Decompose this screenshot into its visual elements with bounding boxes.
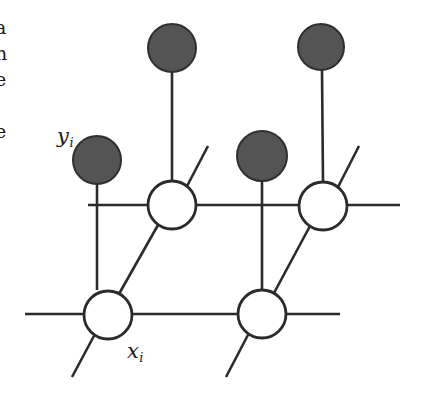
latent-label-subscript: i bbox=[139, 350, 143, 365]
margin-text-column: aneie bbox=[0, 14, 14, 144]
observed-node-middle bbox=[237, 131, 287, 181]
figure-canvas: aneie yi xi bbox=[0, 0, 422, 393]
edge-layer bbox=[25, 70, 400, 377]
observed-label-base: y bbox=[57, 124, 69, 148]
margin-text-fragment: i bbox=[0, 92, 14, 118]
node-layer bbox=[73, 24, 347, 339]
observed-label-subscript: i bbox=[69, 135, 73, 150]
edge-latent-lower-left-to-latent-upper-left bbox=[119, 225, 158, 294]
stub-lower-left-down-left bbox=[72, 334, 95, 377]
edge-latent-lower-right-to-latent-upper-right bbox=[274, 226, 310, 293]
latent-variable-label: xi bbox=[127, 341, 144, 364]
margin-text-fragment: n bbox=[0, 40, 14, 66]
observed-variable-label: yi bbox=[57, 126, 74, 149]
margin-text-fragment: e bbox=[0, 118, 14, 144]
margin-text-fragment: a bbox=[0, 14, 14, 40]
lattice-diagram bbox=[0, 0, 422, 393]
stub-upper-right-up-right bbox=[337, 146, 359, 189]
observed-node-left bbox=[73, 136, 121, 184]
latent-node-lower-right bbox=[238, 290, 286, 338]
latent-node-lower-left bbox=[84, 291, 132, 339]
stub-lower-right-down-left bbox=[226, 333, 249, 377]
latent-node-upper-right bbox=[299, 182, 347, 230]
latent-node-upper-left bbox=[148, 181, 196, 229]
observed-node-top-right bbox=[298, 24, 344, 70]
latent-label-base: x bbox=[127, 339, 139, 363]
edge-observed-top-right-to-latent-upper-right bbox=[322, 70, 323, 182]
stub-upper-left-up-right bbox=[186, 146, 208, 188]
observed-node-top-left bbox=[148, 24, 196, 72]
margin-text-fragment: e bbox=[0, 66, 14, 92]
